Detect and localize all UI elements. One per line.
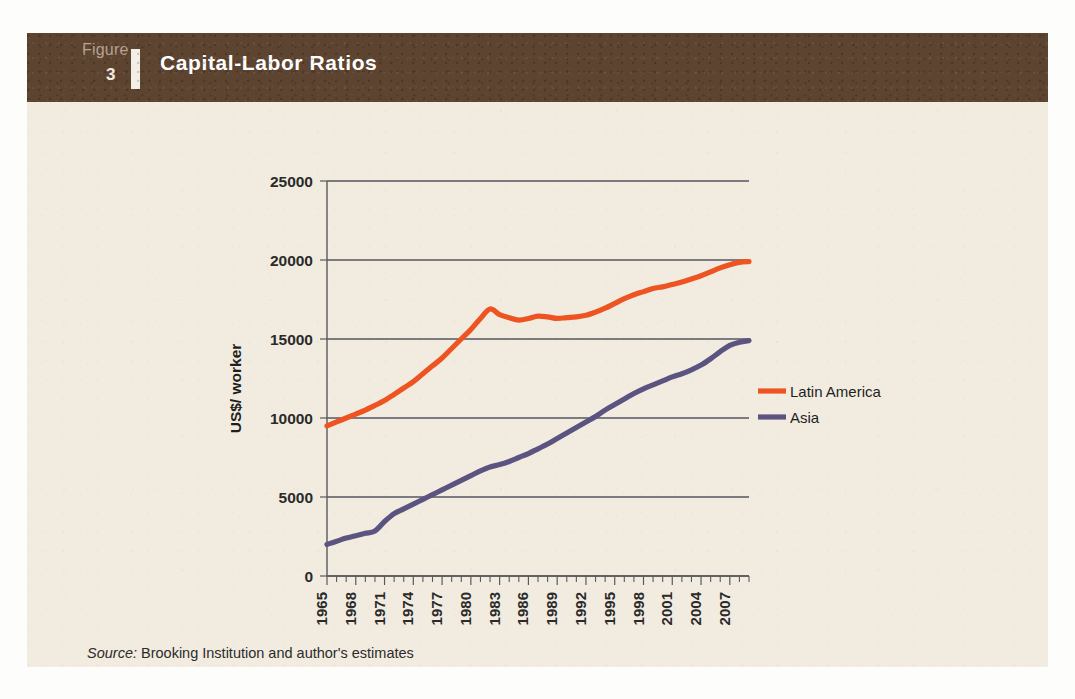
y-tick-label-20000: 20000 (270, 252, 313, 269)
legend-label-latin-america: Latin America (790, 383, 882, 400)
figure-header-band: Figure 3 Capital-Labor Ratios (27, 33, 1048, 102)
chart-legend: Latin AmericaAsia (758, 383, 882, 426)
y-tick-label-10000: 10000 (270, 410, 313, 427)
x-tick-label-1980: 1980 (457, 592, 474, 625)
x-axis-tick-labels: 1965196819711974197719801983198619891992… (313, 591, 733, 625)
figure-number: 3 (106, 65, 115, 85)
x-tick-label-2007: 2007 (716, 592, 733, 625)
header-divider-rule (131, 49, 140, 89)
figure-card: Figure 3 Capital-Labor Ratios 0500010000… (27, 33, 1048, 667)
source-prefix: Source: (87, 645, 137, 661)
y-axis-tick-labels: 0500010000150002000025000 (270, 173, 313, 585)
y-axis-title: US$/ worker (227, 344, 244, 434)
source-text: Brooking Institution and author's estima… (141, 645, 414, 661)
x-tick-label-1986: 1986 (514, 592, 531, 625)
line-chart: 0500010000150002000025000 19651968197119… (27, 102, 1048, 667)
x-tick-label-1974: 1974 (399, 591, 416, 625)
series-line-latin-america (327, 262, 749, 426)
chart-area: 0500010000150002000025000 19651968197119… (27, 102, 1048, 667)
x-tick-label-1971: 1971 (371, 592, 388, 625)
x-tick-label-2001: 2001 (658, 592, 675, 625)
x-tick-label-1968: 1968 (342, 592, 359, 625)
x-tick-label-1989: 1989 (543, 592, 560, 625)
source-note: Source: Brooking Institution and author'… (87, 645, 414, 661)
x-tick-label-1998: 1998 (630, 592, 647, 625)
x-tick-label-1977: 1977 (428, 592, 445, 625)
page-root: Figure 3 Capital-Labor Ratios 0500010000… (0, 0, 1075, 699)
figure-label-word: Figure (82, 41, 129, 59)
series-line-asia (327, 341, 749, 545)
legend-label-asia: Asia (790, 409, 820, 426)
figure-title: Capital-Labor Ratios (160, 51, 377, 75)
x-tick-label-1983: 1983 (486, 592, 503, 625)
x-tick-label-1992: 1992 (572, 592, 589, 625)
y-tick-label-15000: 15000 (270, 331, 313, 348)
y-tick-label-0: 0 (304, 568, 313, 585)
data-series-group (327, 262, 749, 545)
x-tick-label-2004: 2004 (687, 591, 704, 625)
x-tick-label-1995: 1995 (601, 592, 618, 625)
y-tick-label-25000: 25000 (270, 173, 313, 190)
x-tick-label-1965: 1965 (313, 592, 330, 625)
y-tick-label-5000: 5000 (279, 489, 313, 506)
y-axis-title-text: US$/ worker (227, 344, 244, 434)
